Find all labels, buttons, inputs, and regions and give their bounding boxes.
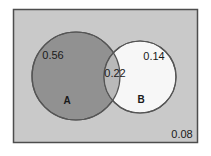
venn-diagram-figure: 0.56 0.22 0.14 0.08 A B [0,0,211,156]
region-value-intersection: 0.22 [100,68,130,79]
set-label-a: A [60,96,74,106]
region-value-a-only: 0.56 [36,50,70,61]
region-value-b-only: 0.14 [137,51,171,62]
set-label-b: B [134,95,148,105]
region-value-outside: 0.08 [167,129,197,140]
